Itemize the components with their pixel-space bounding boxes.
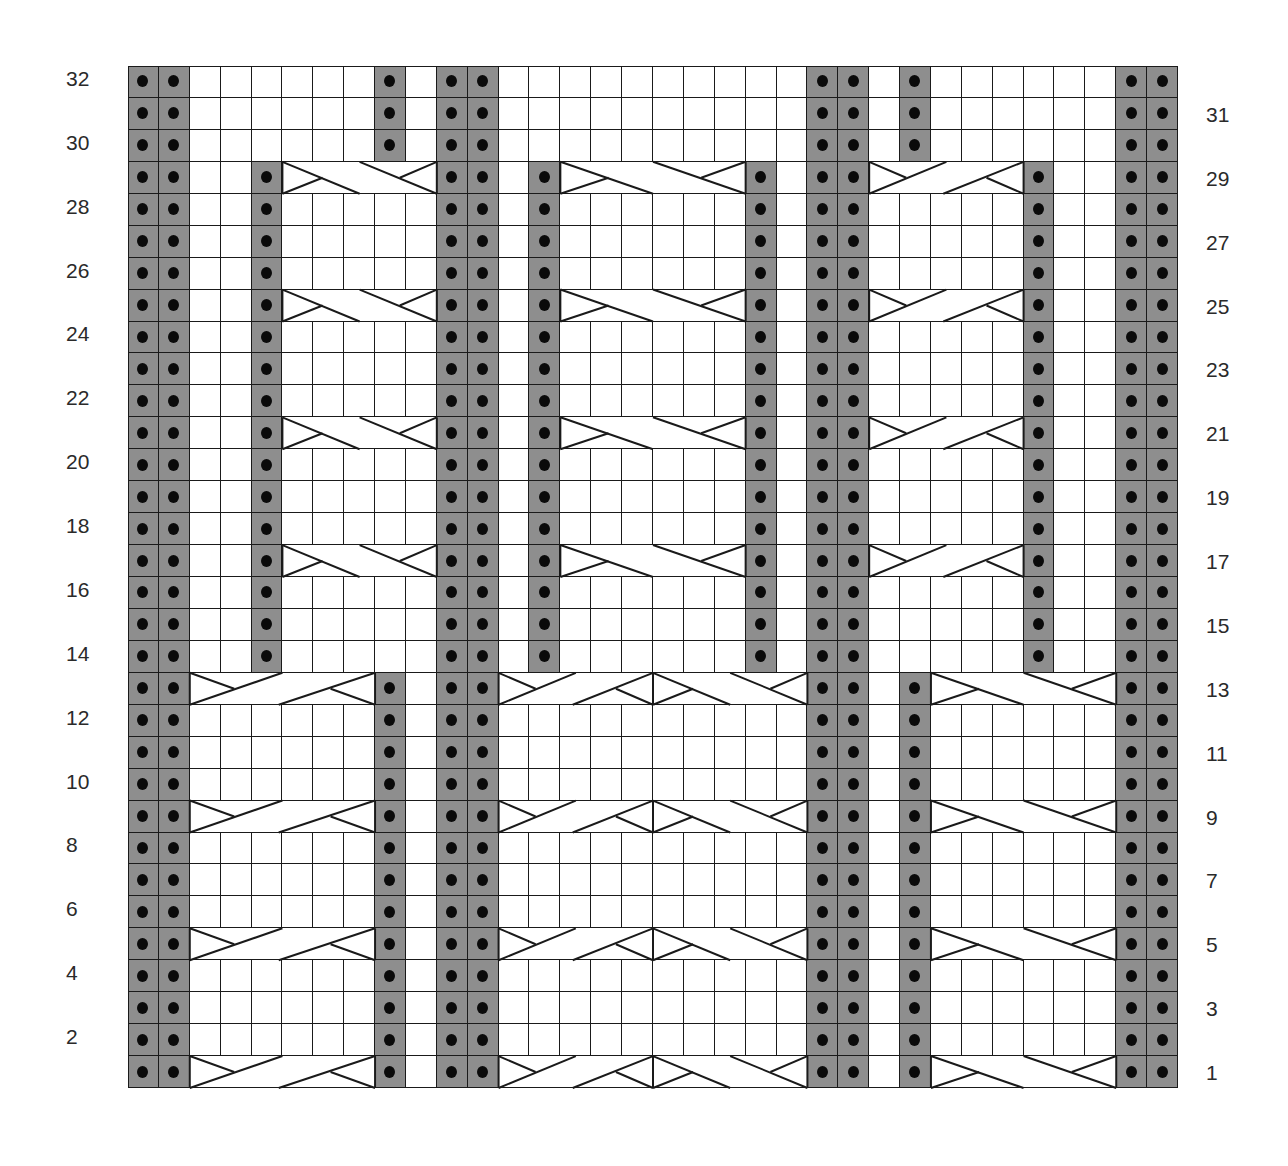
knit-cell [993, 353, 1024, 385]
purl-cell [159, 1024, 190, 1056]
knit-cell [591, 322, 622, 354]
knit-cell [684, 577, 715, 609]
knit-cell [931, 258, 962, 290]
cable-cell [931, 1056, 962, 1088]
knit-cell [190, 513, 221, 545]
row-label-right: 17 [1206, 551, 1246, 573]
knit-cell [282, 226, 313, 258]
knit-cell [282, 769, 313, 801]
knit-cell [499, 641, 530, 673]
knit-cell [1024, 737, 1055, 769]
purl-cell [1024, 226, 1055, 258]
knit-cell [499, 194, 530, 226]
purl-cell [468, 66, 499, 98]
purl-cell [128, 353, 159, 385]
cable-cell [344, 545, 375, 577]
knit-cell [962, 385, 993, 417]
knit-cell [252, 864, 283, 896]
knit-cell [715, 577, 746, 609]
knit-cell [221, 641, 252, 673]
knit-cell [221, 449, 252, 481]
knit-cell [282, 737, 313, 769]
knit-cell [746, 737, 777, 769]
knit-cell [375, 322, 406, 354]
knit-cell [900, 481, 931, 513]
knit-cell [931, 513, 962, 545]
knit-cell [406, 1056, 437, 1088]
knit-cell [1054, 226, 1085, 258]
knit-cell [313, 960, 344, 992]
knit-cell [622, 226, 653, 258]
knit-cell [282, 98, 313, 130]
cable-cell [375, 417, 406, 449]
knit-cell [869, 481, 900, 513]
knit-cell [869, 130, 900, 162]
purl-cell [807, 992, 838, 1024]
knit-cell [560, 992, 591, 1024]
knit-cell [962, 960, 993, 992]
purl-cell [807, 226, 838, 258]
purl-cell [838, 1024, 869, 1056]
knit-cell [777, 896, 808, 928]
purl-cell [1024, 162, 1055, 194]
purl-cell [128, 1056, 159, 1088]
knit-cell [529, 864, 560, 896]
knit-cell [499, 737, 530, 769]
purl-cell [468, 737, 499, 769]
knit-cell [190, 449, 221, 481]
purl-cell [128, 960, 159, 992]
knit-cell [190, 322, 221, 354]
purl-cell [468, 1056, 499, 1088]
purl-cell [375, 66, 406, 98]
cable-cell [313, 1056, 344, 1088]
cable-cell [344, 162, 375, 194]
purl-cell [468, 194, 499, 226]
purl-cell [128, 226, 159, 258]
purl-cell [1147, 769, 1178, 801]
purl-cell [529, 545, 560, 577]
purl-cell [468, 481, 499, 513]
knit-cell [313, 385, 344, 417]
purl-cell [807, 769, 838, 801]
purl-cell [468, 322, 499, 354]
knit-cell [1085, 130, 1116, 162]
knit-cell [221, 992, 252, 1024]
cable-cell [622, 417, 653, 449]
knit-cell [622, 769, 653, 801]
purl-cell [838, 673, 869, 705]
purl-cell [159, 322, 190, 354]
knit-cell [221, 66, 252, 98]
cable-cell [622, 1056, 653, 1088]
purl-cell [128, 545, 159, 577]
purl-cell [1024, 322, 1055, 354]
cable-cell [252, 1056, 283, 1088]
knit-cell [869, 801, 900, 833]
cable-cell [591, 801, 622, 833]
knit-cell [869, 641, 900, 673]
purl-cell [529, 226, 560, 258]
knit-cell [1024, 66, 1055, 98]
purl-cell [159, 577, 190, 609]
knit-cell [221, 769, 252, 801]
knit-cell [190, 960, 221, 992]
knit-cell [591, 960, 622, 992]
knit-cell [499, 864, 530, 896]
purl-cell [746, 513, 777, 545]
cable-cell [190, 801, 221, 833]
knit-cell [653, 66, 684, 98]
knit-cell [715, 705, 746, 737]
knit-cell [190, 226, 221, 258]
row-label-right: 15 [1206, 615, 1246, 637]
purl-cell [1147, 864, 1178, 896]
cable-cell [931, 417, 962, 449]
knit-cell [560, 130, 591, 162]
knit-cell [684, 864, 715, 896]
cable-cell [1024, 1056, 1055, 1088]
purl-cell [1147, 609, 1178, 641]
knit-cell [1085, 737, 1116, 769]
purl-cell [128, 673, 159, 705]
knit-cell [560, 353, 591, 385]
purl-cell [252, 194, 283, 226]
knit-cell [190, 737, 221, 769]
knit-cell [684, 98, 715, 130]
